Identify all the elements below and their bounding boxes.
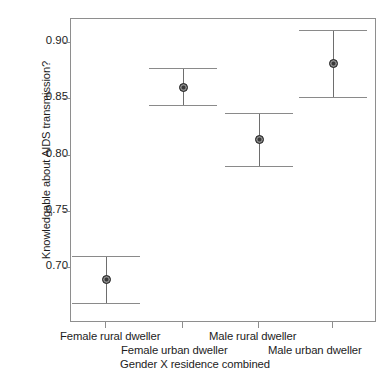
- plot-area: [70, 18, 376, 322]
- data-point-marker: [329, 59, 338, 68]
- x-tick-label: Male urban dweller: [268, 344, 362, 356]
- x-tick-mark: [258, 322, 259, 328]
- error-bar-cap-lower: [149, 105, 217, 106]
- x-tick-mark: [332, 322, 333, 328]
- x-axis-title: Gender X residence combined: [0, 358, 390, 370]
- y-tick-label: 0.85: [46, 90, 68, 102]
- data-point-marker: [179, 83, 188, 92]
- error-bar-cap-lower: [299, 97, 367, 98]
- x-tick-label: Female rural dweller: [60, 330, 160, 342]
- y-tick-label: 0.75: [46, 203, 68, 215]
- error-bar-cap-upper: [225, 113, 293, 114]
- y-tick-label: 0.90: [46, 34, 68, 46]
- y-axis-title: Knowledgable about AIDS transmission?: [40, 20, 52, 300]
- chart-figure: Knowledgable about AIDS transmission? 0.…: [0, 0, 390, 376]
- y-tick-label: 0.80: [46, 147, 68, 159]
- x-tick-mark: [182, 322, 183, 328]
- data-point-marker: [255, 135, 264, 144]
- error-bar-cap-lower: [72, 303, 140, 304]
- error-bar-cap-upper: [299, 30, 367, 31]
- data-point-marker: [102, 275, 111, 284]
- x-tick-mark: [105, 322, 106, 328]
- error-bar-cap-upper: [72, 256, 140, 257]
- y-tick-label: 0.70: [46, 259, 68, 271]
- error-bar-cap-upper: [149, 68, 217, 69]
- x-tick-label: Female urban dweller: [121, 344, 228, 356]
- error-bar-cap-lower: [225, 166, 293, 167]
- x-tick-label: Male rural dweller: [209, 330, 296, 342]
